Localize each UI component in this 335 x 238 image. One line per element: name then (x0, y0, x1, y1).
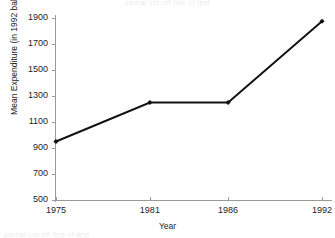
data-series-layer (0, 0, 335, 238)
series-line-mean-expenditure (56, 21, 322, 141)
data-point-1975 (53, 139, 58, 144)
line-chart-figure: partial cut-off line of text Mean Expend… (0, 0, 335, 238)
scan-artifact-bottom: partial cut-off line of text (4, 232, 335, 238)
x-axis-title: Year (0, 221, 335, 231)
data-point-1981 (147, 100, 152, 105)
